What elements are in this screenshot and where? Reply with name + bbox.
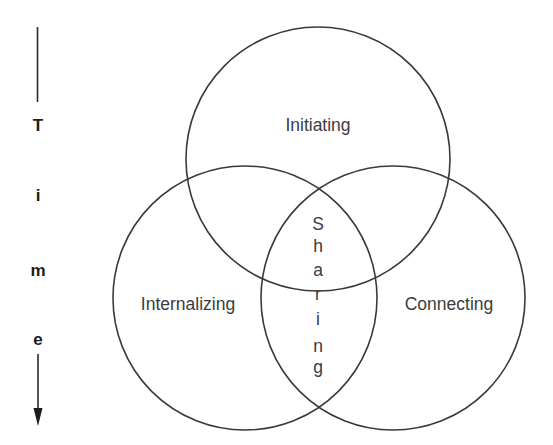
time-letter-t: T bbox=[33, 116, 44, 135]
sharing-letter: i bbox=[316, 309, 320, 329]
sharing-letter: g bbox=[313, 357, 323, 377]
sharing-letter: n bbox=[313, 336, 323, 356]
label-initiating: Initiating bbox=[285, 115, 350, 135]
diagram-canvas: T i m e Initiating Internalizing Connect… bbox=[0, 0, 553, 445]
arrow-down-icon bbox=[34, 408, 43, 426]
time-letter-e: e bbox=[33, 330, 42, 349]
venn-diagram: T i m e Initiating Internalizing Connect… bbox=[0, 0, 553, 445]
sharing-letter: h bbox=[313, 236, 323, 256]
sharing-letter: S bbox=[312, 214, 324, 234]
time-letter-m: m bbox=[30, 261, 45, 280]
label-sharing: S h a r i n g bbox=[312, 214, 324, 377]
sharing-letter: a bbox=[313, 260, 323, 280]
label-connecting: Connecting bbox=[405, 294, 494, 314]
sharing-letter: r bbox=[315, 284, 321, 304]
time-letter-i: i bbox=[36, 186, 41, 205]
label-internalizing: Internalizing bbox=[141, 294, 235, 314]
time-axis: T i m e bbox=[30, 27, 45, 426]
